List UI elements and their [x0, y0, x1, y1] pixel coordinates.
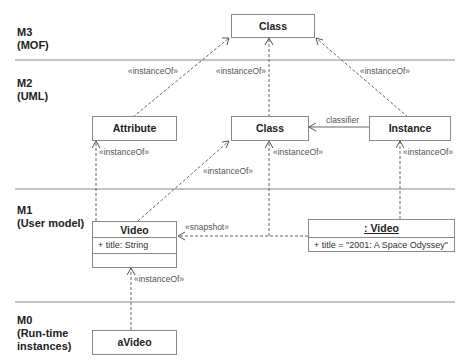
box-uml-attribute[interactable]: Attribute: [92, 116, 177, 141]
edge-label-video-to-attribute: «instanceOf»: [99, 147, 149, 157]
metamodel-diagram: M3 (MOF) M2 (UML) M1 (User model) M0 (Ru…: [0, 0, 468, 364]
edge-label-classifier: classifier: [326, 115, 359, 125]
box-uml-class[interactable]: Class: [231, 116, 309, 141]
box-avideo[interactable]: aVideo: [92, 330, 177, 355]
box-title: Video: [93, 222, 176, 237]
box-operations-compartment: [93, 253, 176, 268]
layer-label-m0: M0 (Run-time instances): [17, 314, 71, 353]
box-title: Class: [232, 117, 308, 140]
box-title: Attribute: [93, 117, 176, 140]
box-attribute: + title: String: [93, 237, 176, 253]
edge-label-class-to-mof: «instanceOf»: [216, 66, 266, 76]
edge-instance-to-mof: [316, 38, 408, 117]
box-title: aVideo: [93, 331, 176, 354]
connector-layer: [0, 0, 468, 364]
edge-label-snapshot: «snapshot»: [185, 222, 229, 232]
layer-label-m1: M1 (User model): [17, 204, 84, 230]
layer-label-m3: M3 (MOF): [17, 26, 49, 52]
box-attribute: + title = "2001: A Space Odyssey": [309, 237, 454, 252]
edge-label-video-to-class: «instanceOf»: [203, 166, 253, 176]
box-title: : Video: [309, 220, 454, 237]
box-title: Class: [232, 15, 314, 37]
edge-label-videoinst-to-instance: «instanceOf»: [403, 147, 453, 157]
edge-label-avideo-to-video: «instanceOf»: [134, 274, 184, 284]
edge-label-instance-to-mof: «instanceOf»: [360, 66, 410, 76]
box-video-class[interactable]: Video + title: String: [92, 221, 177, 268]
edge-label-attr-to-mof: «instanceOf»: [128, 66, 178, 76]
box-mof-class[interactable]: Class: [231, 14, 315, 38]
edge-video-to-class: [138, 141, 229, 221]
box-uml-instance[interactable]: Instance: [369, 116, 451, 141]
box-video-instance[interactable]: : Video + title = "2001: A Space Odyssey…: [308, 219, 455, 252]
edge-label-snapshot-to-class: «instanceOf»: [273, 147, 323, 157]
edge-attr-to-mof: [133, 38, 229, 117]
layer-label-m2: M2 (UML): [17, 77, 48, 103]
box-title: Instance: [370, 117, 450, 140]
